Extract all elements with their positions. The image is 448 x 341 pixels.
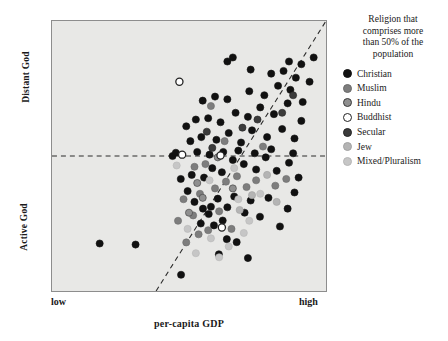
data-point: [206, 177, 213, 184]
legend-item-label: Muslim: [357, 83, 387, 93]
legend-title-line: Religion that: [342, 14, 444, 26]
data-point: [191, 163, 198, 170]
y-axis-label-distant-god-text: Distant God: [21, 51, 31, 103]
legend-item-label: Secular: [357, 127, 386, 137]
data-point: [210, 222, 217, 229]
legend-swatch-icon: [343, 69, 352, 78]
data-point: [229, 54, 236, 61]
data-point: [291, 189, 298, 196]
data-point: [279, 125, 286, 132]
data-point: [199, 97, 206, 104]
data-point: [213, 136, 220, 143]
data-point: [96, 240, 103, 247]
data-point: [216, 254, 223, 261]
data-point: [237, 139, 244, 146]
data-point: [205, 210, 212, 217]
legend-item-secular[interactable]: Secular: [340, 125, 446, 140]
data-point: [209, 144, 216, 151]
data-point: [132, 241, 139, 248]
legend-item-hindu[interactable]: Hindu: [340, 96, 446, 111]
data-point: [244, 254, 251, 261]
data-point: [173, 162, 180, 169]
data-point: [205, 227, 212, 234]
data-point: [280, 67, 287, 74]
data-point: [256, 213, 263, 220]
legend-swatch-icon: [343, 157, 352, 166]
legend-swatch-icon: [343, 142, 352, 151]
data-point: [292, 74, 299, 81]
data-point: [185, 209, 192, 216]
data-point: [284, 100, 291, 107]
data-point: [236, 206, 243, 213]
data-point: [284, 205, 291, 212]
data-point: [233, 239, 240, 246]
data-point: [209, 165, 216, 172]
data-point: [253, 177, 260, 184]
data-point: [251, 150, 258, 157]
legend-title-line: comprises more: [342, 26, 444, 38]
data-point: [184, 225, 191, 232]
data-point: [198, 134, 205, 141]
data-point: [254, 116, 261, 123]
x-axis-tick-high: high: [299, 296, 318, 307]
legend-item-jew[interactable]: Jew: [340, 139, 446, 154]
data-point: [276, 223, 283, 230]
data-point: [270, 111, 277, 118]
legend-item-buddhist[interactable]: Buddhist: [340, 110, 446, 125]
data-point: [184, 188, 191, 195]
legend-entries: ChristianMuslimHinduBuddhistSecularJewMi…: [340, 66, 446, 168]
data-point: [224, 96, 231, 103]
data-point: [224, 204, 231, 211]
data-point: [273, 167, 280, 174]
data-point: [219, 217, 226, 224]
data-point: [218, 224, 225, 231]
data-point: [197, 220, 204, 227]
plot-area: [51, 20, 327, 292]
data-point: [268, 70, 275, 77]
data-point: [205, 115, 212, 122]
data-point: [207, 203, 214, 210]
x-axis-label: per-capita GDP: [51, 318, 327, 329]
y-axis-label-distant-god: Distant God: [0, 72, 44, 82]
legend-item-mixed-pluralism[interactable]: Mixed/Pluralism: [340, 154, 446, 169]
data-point: [192, 116, 199, 123]
data-point: [229, 185, 236, 192]
data-point: [206, 151, 213, 158]
legend-title: Religion thatcomprises morethan 50% of t…: [340, 14, 446, 60]
data-point: [253, 166, 260, 173]
data-point: [183, 239, 190, 246]
x-axis-tick-low: low: [51, 296, 66, 307]
data-point: [240, 229, 247, 236]
legend-swatch-icon: [343, 84, 352, 93]
data-point: [177, 175, 184, 182]
data-point: [207, 102, 214, 109]
data-point: [283, 175, 290, 182]
legend-title-line: population: [342, 49, 444, 61]
data-point: [199, 205, 206, 212]
data-point: [217, 152, 224, 159]
data-point: [214, 195, 221, 202]
data-point: [187, 138, 194, 145]
data-point: [233, 173, 240, 180]
legend-item-muslim[interactable]: Muslim: [340, 81, 446, 96]
data-point: [207, 235, 214, 242]
legend-title-line: than 50% of the: [342, 37, 444, 49]
legend-item-christian[interactable]: Christian: [340, 66, 446, 81]
data-point: [257, 190, 264, 197]
data-point: [217, 119, 224, 126]
data-point: [299, 98, 306, 105]
data-point: [264, 134, 271, 141]
data-point: [225, 243, 232, 250]
data-point: [272, 182, 279, 189]
data-point: [246, 88, 253, 95]
data-point: [228, 225, 235, 232]
data-point: [279, 109, 286, 116]
data-point: [247, 66, 254, 73]
data-point: [194, 148, 201, 155]
data-point: [195, 231, 202, 238]
legend-item-label: Christian: [357, 69, 392, 79]
data-point: [183, 123, 190, 130]
data-point: [248, 127, 255, 134]
data-point: [264, 171, 271, 178]
data-point: [243, 183, 250, 190]
